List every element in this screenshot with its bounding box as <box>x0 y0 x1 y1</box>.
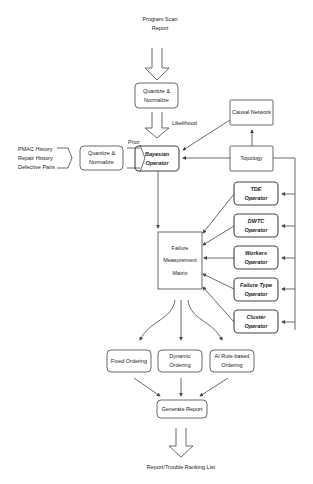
cluster-operator: Cluster Operator <box>234 310 278 333</box>
quantize-top-label: Quantize & Normalize <box>135 83 178 108</box>
fixed-ordering: Fixed Ordering <box>107 350 151 372</box>
quantize-left-label: Quantize & Normalize <box>80 146 123 170</box>
causal-network: Causal Network <box>230 100 273 125</box>
dynamic-ordering: Dynamic Ordering <box>158 350 202 372</box>
likelihood-label: Likelihood <box>172 119 197 127</box>
left-input-defective: Defective Pairs <box>18 163 55 171</box>
ai-rule-based-ordering: AI Rule-based Ordering <box>210 350 254 372</box>
workers-operator: Workers Operator <box>234 246 278 269</box>
left-input-pmac: PMAC History <box>18 145 53 153</box>
failure-type-operator: Failure Type Operator <box>234 278 278 301</box>
hollow-arrow-likelihood <box>145 112 169 138</box>
hollow-arrow-top <box>145 48 169 80</box>
tde-operator: TDE Operator <box>234 182 278 205</box>
input-top-label: Program Scan Report <box>120 14 200 34</box>
generate-report: Generate Report <box>157 400 207 418</box>
prior-label: Prior <box>128 138 140 146</box>
hollow-arrow-output <box>169 428 193 457</box>
failure-measurement-matrix: Failure Measurement Matrix <box>158 232 202 289</box>
hollow-arrow-inputs <box>57 148 72 168</box>
output-label: Report/Trouble Ranking List <box>121 462 241 472</box>
left-input-repair: Repair History <box>18 154 53 162</box>
bayesian-operator: Bayesian Operator <box>135 146 179 171</box>
dwtc-operator: DWTC Operator <box>234 214 278 237</box>
topology: Topology <box>230 146 273 171</box>
